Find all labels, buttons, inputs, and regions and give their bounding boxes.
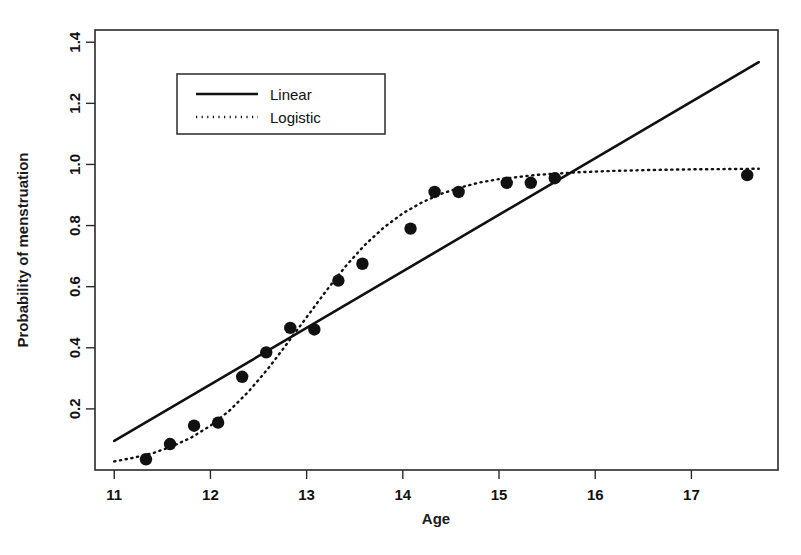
data-point-group — [140, 169, 754, 466]
data-point — [452, 186, 464, 198]
x-tick-label: 17 — [683, 486, 700, 503]
data-point — [525, 177, 537, 189]
y-tick-label: 1.2 — [66, 93, 83, 114]
x-axis-tick-labels: 11121314151617 — [106, 486, 699, 503]
data-point — [501, 177, 513, 189]
legend-label-linear: Linear — [270, 86, 312, 103]
y-tick-label: 1.0 — [66, 154, 83, 175]
y-axis-ticks — [86, 42, 95, 409]
data-point — [428, 186, 440, 198]
data-point — [164, 438, 176, 450]
legend-label-logistic: Logistic — [270, 109, 321, 126]
y-tick-label: 1.4 — [66, 31, 83, 53]
data-point — [356, 258, 368, 270]
x-axis-ticks — [114, 470, 691, 479]
chart-figure: 11121314151617 0.20.40.60.81.01.21.4 Age… — [0, 0, 801, 555]
data-point — [212, 416, 224, 428]
logistic-curve — [114, 169, 759, 462]
menstruation-probability-chart: 11121314151617 0.20.40.60.81.01.21.4 Age… — [0, 0, 801, 555]
x-axis-title: Age — [422, 510, 450, 527]
data-point — [549, 172, 561, 184]
x-tick-label: 14 — [394, 486, 411, 503]
data-point — [140, 453, 152, 465]
chart-legend: Linear Logistic — [177, 74, 385, 134]
data-point — [236, 371, 248, 383]
x-tick-label: 13 — [298, 486, 315, 503]
data-point — [332, 274, 344, 286]
x-tick-label: 12 — [202, 486, 219, 503]
data-point — [404, 222, 416, 234]
x-tick-label: 11 — [106, 486, 122, 503]
y-tick-label: 0.6 — [66, 276, 83, 297]
y-tick-label: 0.8 — [66, 215, 83, 236]
data-point — [260, 346, 272, 358]
data-point — [741, 169, 753, 181]
x-tick-label: 16 — [587, 486, 604, 503]
y-axis-title: Probability of menstruation — [14, 152, 31, 347]
x-tick-label: 15 — [491, 486, 508, 503]
y-tick-label: 0.4 — [66, 337, 83, 359]
data-point — [188, 419, 200, 431]
data-point — [308, 323, 320, 335]
data-point — [284, 322, 296, 334]
y-axis-tick-labels: 0.20.40.60.81.01.21.4 — [66, 31, 83, 419]
y-tick-label: 0.2 — [66, 398, 83, 419]
